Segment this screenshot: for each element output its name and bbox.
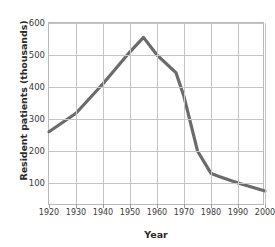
x-tick-label-1960: 1960 [147, 208, 167, 217]
gridline-horizontal [49, 151, 263, 152]
y-tick-label-600: 600 [29, 18, 45, 28]
x-tick-label-1970: 1970 [174, 208, 194, 217]
gridline-horizontal [49, 55, 263, 56]
x-tick-label-1980: 1980 [201, 208, 221, 217]
y-tick-label-100: 100 [29, 178, 45, 188]
x-axis-title: Year [48, 229, 264, 240]
x-tick-label-1950: 1950 [120, 208, 140, 217]
line-chart-figure: Resident patients (thousands) 1002003004… [0, 0, 275, 247]
gridline-vertical [157, 23, 158, 204]
gridline-vertical [184, 23, 185, 204]
y-tick-label-500: 500 [29, 50, 45, 60]
plot-area: 1002003004005006001920193019401950196019… [48, 22, 264, 205]
y-tick-label-300: 300 [29, 114, 45, 124]
gridline-vertical [130, 23, 131, 204]
gridline-vertical [265, 23, 266, 204]
y-axis-title: Resident patients (thousands) [18, 16, 29, 186]
x-tick-label-1940: 1940 [93, 208, 113, 217]
x-tick-label-2000: 2000 [255, 208, 275, 217]
gridline-horizontal [49, 183, 263, 184]
x-tick-label-1930: 1930 [66, 208, 86, 217]
y-tick-label-200: 200 [29, 146, 45, 156]
gridline-vertical [211, 23, 212, 204]
x-tick-label-1990: 1990 [228, 208, 248, 217]
gridline-horizontal [49, 119, 263, 120]
gridline-horizontal [49, 87, 263, 88]
gridline-vertical [103, 23, 104, 204]
y-tick-label-400: 400 [29, 82, 45, 92]
x-tick-label-1920: 1920 [39, 208, 59, 217]
gridline-vertical [238, 23, 239, 204]
gridline-horizontal [49, 23, 263, 24]
gridline-vertical [76, 23, 77, 204]
